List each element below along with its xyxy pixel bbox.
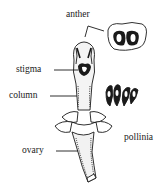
label-anther: anther xyxy=(66,10,90,20)
label-column: column xyxy=(9,91,38,101)
pollinia-group xyxy=(106,85,138,106)
anther-detail xyxy=(108,23,147,51)
petal-bases xyxy=(55,112,112,133)
ovary-body xyxy=(72,132,96,182)
label-ovary: ovary xyxy=(22,146,44,156)
anther-leader-lines xyxy=(85,26,104,37)
label-stigma: stigma xyxy=(16,65,41,75)
label-pollinia: pollinia xyxy=(124,133,153,143)
